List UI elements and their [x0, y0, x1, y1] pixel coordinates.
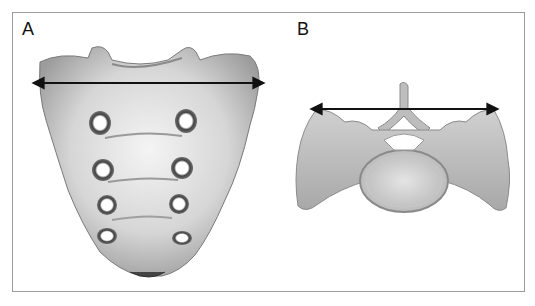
figure-illustration — [0, 0, 535, 306]
sacrum-superior-illustration — [296, 82, 510, 212]
sacrum-anterior-illustration — [40, 47, 259, 277]
